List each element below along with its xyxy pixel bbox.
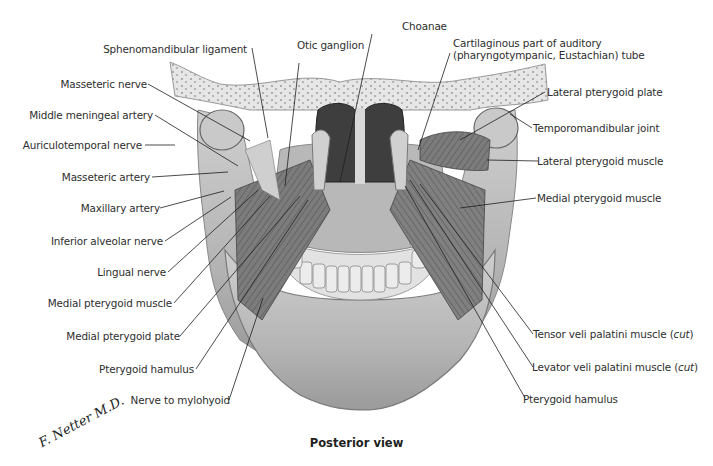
label-tensor-veli-palatini: Tensor veli palatini muscle (cut)	[533, 328, 693, 340]
label-medial-pterygoid-muscle-right: Medial pterygoid muscle	[537, 192, 661, 204]
label-choanae: Choanae	[402, 20, 447, 32]
label-lateral-pterygoid-plate: Lateral pterygoid plate	[547, 86, 663, 98]
label-text: Tensor veli palatini muscle (	[533, 328, 674, 340]
label-pterygoid-hamulus-left: Pterygoid hamulus	[99, 363, 194, 375]
label-masseteric-artery: Masseteric artery	[62, 171, 150, 183]
label-sphenomandibular-ligament: Sphenomandibular ligament	[103, 43, 247, 55]
label-medial-pterygoid-muscle-left: Medial pterygoid muscle	[48, 297, 172, 309]
label-italic: cut	[674, 328, 690, 340]
vomer	[355, 108, 365, 184]
left-condyle	[200, 110, 244, 150]
label-auditory-tube-line1: Cartilaginous part of auditory	[453, 37, 602, 49]
label-text: Levator veli palatini muscle (	[532, 361, 678, 373]
label-maxillary-artery: Maxillary artery	[81, 202, 160, 214]
label-pterygoid-hamulus-right: Pterygoid hamulus	[523, 393, 618, 405]
skull-base	[170, 62, 548, 110]
label-middle-meningeal-artery: Middle meningeal artery	[29, 109, 153, 121]
label-italic: cut	[678, 361, 694, 373]
label-inferior-alveolar-nerve: Inferior alveolar nerve	[51, 235, 163, 247]
label-auriculotemporal-nerve: Auriculotemporal nerve	[23, 139, 142, 151]
label-temporomandibular-joint: Temporomandibular joint	[533, 122, 659, 134]
figure-caption: Posterior view	[0, 436, 713, 450]
label-auditory-tube-line2: (pharyngotympanic, Eustachian) tube	[453, 49, 645, 61]
label-medial-pterygoid-plate: Medial pterygoid plate	[66, 330, 180, 342]
label-lingual-nerve: Lingual nerve	[97, 266, 166, 278]
label-otic-ganglion: Otic ganglion	[297, 39, 364, 51]
anatomy-figure: Sphenomandibular ligament Masseteric ner…	[0, 0, 713, 466]
label-nerve-to-mylohyoid: Nerve to mylohyoid	[131, 394, 230, 406]
label-masseteric-nerve: Masseteric nerve	[60, 78, 147, 90]
label-levator-veli-palatini: Levator veli palatini muscle (cut)	[532, 361, 698, 373]
label-lateral-pterygoid-muscle: Lateral pterygoid muscle	[537, 155, 663, 167]
